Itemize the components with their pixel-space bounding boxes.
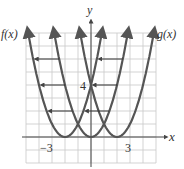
tick-label-neg3: −3 [40, 141, 53, 156]
tick-label-4: 4 [80, 79, 86, 94]
tick-label-3: 3 [125, 141, 131, 156]
y-axis-label: y [87, 3, 92, 18]
f-label: f(x) [1, 27, 18, 42]
parabola-graph [0, 0, 184, 169]
g-label: g(x) [157, 27, 176, 42]
x-axis-label: x [169, 129, 175, 145]
